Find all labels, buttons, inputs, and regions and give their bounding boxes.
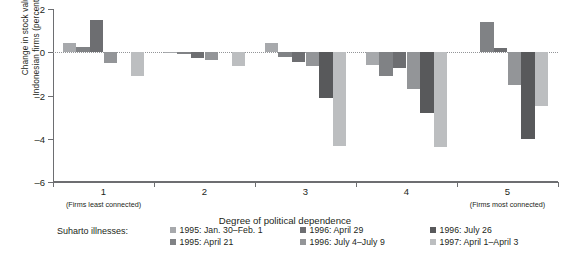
x-tick xyxy=(154,182,155,187)
x-tick xyxy=(53,182,54,187)
legend-label: 1995: Jan. 30–Feb. 1 xyxy=(180,225,263,235)
legend-item[interactable]: 1995: April 21 xyxy=(170,236,263,248)
x-tick-label-2: 2 xyxy=(202,186,207,197)
bar xyxy=(205,52,219,60)
legend-label: 1996: July 26 xyxy=(440,225,492,235)
legend-swatch-icon xyxy=(170,227,176,233)
bar xyxy=(333,52,347,146)
legend-title: Suharto illnesses: xyxy=(57,226,128,236)
y-tick-label: –2 xyxy=(34,90,45,101)
bar-group-1 xyxy=(53,9,154,182)
bar xyxy=(191,52,205,57)
bar xyxy=(306,52,320,66)
legend-swatch-icon xyxy=(430,227,436,233)
bar xyxy=(177,52,191,54)
legend-swatch-icon xyxy=(170,239,176,245)
bar xyxy=(434,52,448,147)
bar xyxy=(420,52,434,113)
plot-area: 20–2–4–6 xyxy=(53,9,558,182)
legend-swatch-icon xyxy=(430,239,436,245)
bar-group-3 xyxy=(255,9,356,182)
legend-column: 1995: Jan. 30–Feb. 11995: April 21 xyxy=(170,224,263,248)
x-tick-label-4: 4 xyxy=(404,186,409,197)
bar xyxy=(104,52,118,63)
legend-item[interactable]: 1997: April 1–April 3 xyxy=(430,236,518,248)
legend-column: 1996: July 261997: April 1–April 3 xyxy=(430,224,518,248)
x-tick xyxy=(558,182,559,187)
bar xyxy=(76,47,90,52)
bar xyxy=(521,52,535,139)
legend-item[interactable]: 1995: Jan. 30–Feb. 1 xyxy=(170,224,263,236)
legend-item[interactable]: 1996: April 29 xyxy=(300,224,385,236)
bar xyxy=(63,43,77,53)
bar-group-2 xyxy=(154,9,255,182)
bar xyxy=(90,20,104,52)
bar xyxy=(393,52,407,68)
x-tick xyxy=(457,182,458,187)
chart-legend: Suharto illnesses: 1995: Jan. 30–Feb. 11… xyxy=(57,224,557,254)
x-tick-sublabel: (Firms least connected) xyxy=(66,200,141,209)
bar xyxy=(379,52,393,76)
bar-group-4 xyxy=(356,9,457,182)
x-tick xyxy=(356,182,357,187)
legend-label: 1997: April 1–April 3 xyxy=(440,237,519,247)
legend-label: 1995: April 21 xyxy=(180,237,234,247)
x-tick-label-3: 3 xyxy=(303,186,308,197)
bar xyxy=(319,52,333,97)
bar xyxy=(278,52,292,56)
bar xyxy=(494,48,508,52)
bar xyxy=(480,22,494,52)
y-tick-label: –6 xyxy=(34,177,45,188)
bar-group-5 xyxy=(457,9,558,182)
legend-item[interactable]: 1996: July 4–July 9 xyxy=(300,236,385,248)
bar xyxy=(131,52,145,76)
bar xyxy=(164,52,178,53)
chart-figure: Change in stock values of Indonesian fir… xyxy=(0,0,570,258)
x-tick xyxy=(255,182,256,187)
y-tick-label: –4 xyxy=(34,133,45,144)
bar xyxy=(366,52,380,65)
legend-label: 1996: July 4–July 9 xyxy=(310,237,385,247)
legend-label: 1996: April 29 xyxy=(310,225,364,235)
y-tick-label: 2 xyxy=(40,4,45,15)
x-tick-label-1: 1 xyxy=(101,186,106,197)
bar xyxy=(407,52,421,89)
legend-column: 1996: April 291996: July 4–July 9 xyxy=(300,224,385,248)
bar xyxy=(265,43,279,53)
legend-item[interactable]: 1996: July 26 xyxy=(430,224,518,236)
legend-swatch-icon xyxy=(300,227,306,233)
bar xyxy=(535,52,549,106)
legend-swatch-icon xyxy=(300,239,306,245)
x-tick-label-5: 5 xyxy=(505,186,510,197)
bar xyxy=(292,52,306,62)
y-tick-label: 0 xyxy=(40,47,45,58)
x-tick-sublabel: (Firms most connected) xyxy=(470,200,546,209)
bar xyxy=(508,52,522,84)
bar xyxy=(232,52,246,66)
